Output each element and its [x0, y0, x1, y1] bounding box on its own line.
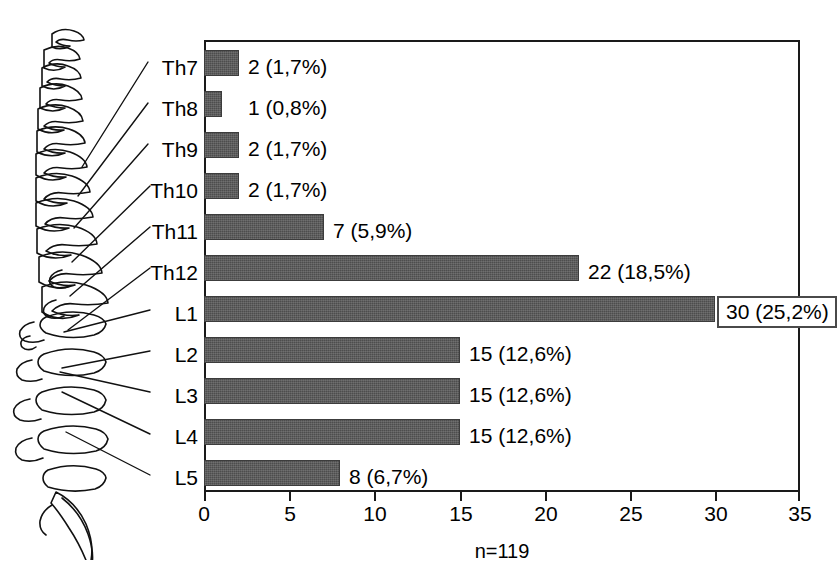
- category-label-l2: L2: [78, 344, 198, 365]
- x-tick-label-35: 35: [770, 503, 830, 524]
- bar-l2: [204, 337, 460, 363]
- x-tick-15: [460, 492, 462, 501]
- x-tick-20: [545, 492, 547, 501]
- x-tick-25: [630, 492, 632, 501]
- value-label-l3: 15 (12,6%): [469, 384, 572, 405]
- category-label-th7: Th7: [78, 57, 198, 78]
- bar-l4: [204, 419, 460, 445]
- value-label-th8: 1 (0,8%): [248, 97, 327, 118]
- bar-l1: [204, 296, 715, 322]
- category-label-l1: L1: [78, 303, 198, 324]
- category-label-th8: Th8: [78, 98, 198, 119]
- value-label-l2: 15 (12,6%): [469, 343, 572, 364]
- bar-th7: [204, 50, 239, 76]
- category-label-th10: Th10: [78, 180, 198, 201]
- value-label-l4: 15 (12,6%): [469, 425, 572, 446]
- category-label-l4: L4: [78, 426, 198, 447]
- x-tick-label-15: 15: [431, 503, 491, 524]
- category-label-l5: L5: [78, 467, 198, 488]
- bar-th8: [204, 91, 222, 117]
- value-label-th12: 22 (18,5%): [588, 261, 691, 282]
- vertebral-fracture-distribution-figure: Th7 Th8 Th9 Th10 Th11 Th12 L1 L2 L3 L4 L…: [0, 0, 839, 575]
- x-tick-label-10: 10: [345, 503, 405, 524]
- value-label-th11: 7 (5,9%): [333, 220, 412, 241]
- category-label-th12: Th12: [78, 262, 198, 283]
- x-axis: 0 5 10 15 20 25 30 35 n=119: [204, 492, 800, 493]
- x-tick-label-5: 5: [260, 503, 320, 524]
- bar-th9: [204, 132, 239, 158]
- x-tick-30: [715, 492, 717, 501]
- sample-size-caption: n=119: [204, 540, 800, 563]
- bar-l3: [204, 378, 460, 404]
- value-label-th7: 2 (1,7%): [248, 56, 327, 77]
- value-label-l1: 30 (25,2%): [717, 296, 837, 328]
- x-tick-35: [798, 492, 800, 501]
- value-label-l5: 8 (6,7%): [349, 466, 428, 487]
- value-label-th9: 2 (1,7%): [248, 138, 327, 159]
- category-label-l3: L3: [78, 385, 198, 406]
- bar-l5: [204, 460, 340, 486]
- x-tick-label-20: 20: [516, 503, 576, 524]
- x-tick-10: [374, 492, 376, 501]
- x-tick-label-25: 25: [601, 503, 661, 524]
- category-label-th9: Th9: [78, 139, 198, 160]
- value-label-th10: 2 (1,7%): [248, 179, 327, 200]
- category-label-th11: Th11: [78, 221, 198, 242]
- x-tick-label-0: 0: [174, 503, 234, 524]
- x-tick-label-30: 30: [686, 503, 746, 524]
- x-tick-5: [289, 492, 291, 501]
- bar-th10: [204, 173, 239, 199]
- bar-th11: [204, 214, 324, 240]
- bar-th12: [204, 255, 579, 281]
- x-tick-0: [204, 492, 206, 501]
